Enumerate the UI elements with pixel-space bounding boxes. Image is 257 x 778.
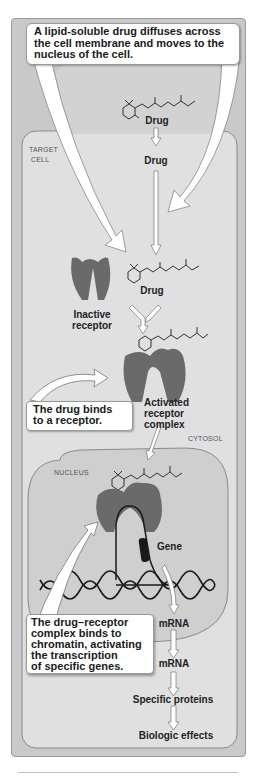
biologic-effects-label: Biologic effects <box>139 730 213 741</box>
target-cell-label-2: CELL <box>31 156 49 163</box>
bottom-divider <box>18 772 238 773</box>
drug-label-outside: Drug <box>145 115 168 126</box>
chromatin-callout-line-5: of specific genes. <box>31 661 123 673</box>
mrna-label-cytosol: mRNA <box>159 658 190 669</box>
top-callout-text: A lipid-soluble drug diffuses across the… <box>34 26 234 61</box>
mrna-label-nucleus: mRNA <box>159 618 190 629</box>
activated-label-2: receptor <box>144 408 184 419</box>
inactive-receptor-label-2: receptor <box>72 320 112 331</box>
cytosol-label: CYTOSOL <box>188 435 223 442</box>
binds-callout-line-2: to a receptor. <box>33 415 102 427</box>
inactive-receptor-label-1: Inactive <box>73 309 110 320</box>
gene-label: Gene <box>157 541 182 552</box>
drug-label-cytosol: Drug <box>140 285 163 296</box>
specific-proteins-label: Specific proteins <box>133 694 214 705</box>
activated-label-1: Activated <box>144 397 189 408</box>
extracellular-region <box>55 64 225 134</box>
nucleus-label: NUCLEUS <box>54 469 89 476</box>
target-cell-label-1: TARGET <box>29 146 58 153</box>
activated-label-3: complex <box>144 419 185 430</box>
drug-label-membrane: Drug <box>144 155 167 166</box>
